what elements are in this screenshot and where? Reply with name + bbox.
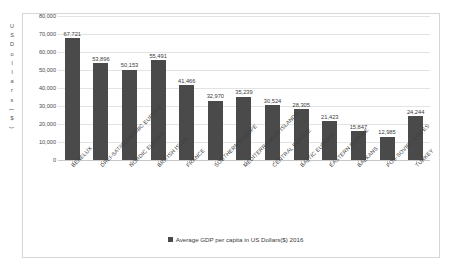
bar-value-label: 12,985 [378, 129, 395, 135]
y-axis-tick-label: 60,000 [39, 49, 56, 55]
bar-value-label: 35,239 [235, 89, 252, 95]
y-axis-title-char: U [10, 22, 14, 31]
y-axis-tick-label: 80,000 [39, 13, 56, 19]
chart-legend: Average GDP per capita in US Dollars($) … [0, 236, 471, 243]
y-axis-tick-label: 0 [53, 157, 56, 163]
bar[interactable] [208, 101, 223, 160]
y-axis-tick-label: 30,000 [39, 103, 56, 109]
bar-value-label: 50,153 [121, 62, 138, 68]
bar-value-label: 53,896 [92, 56, 109, 62]
y-axis-title-char: S [10, 31, 14, 40]
y-axis-title-char: ) [7, 108, 16, 110]
bar-value-label: 21,423 [321, 114, 338, 120]
bar-slot[interactable]: 53,896 [87, 16, 116, 160]
y-axis-title: USDollars)$( [5, 22, 19, 132]
bar-value-label: 30,524 [264, 98, 281, 104]
y-axis-tick-labels: 010,00020,00030,00040,00050,00060,00070,… [24, 14, 56, 162]
y-axis-title-char: s [11, 96, 14, 105]
y-axis-title-char: D [10, 40, 14, 49]
y-axis-title-char: $ [10, 114, 13, 123]
bar-slot[interactable]: 67,721 [58, 16, 87, 160]
y-axis-tick-label: 50,000 [39, 67, 56, 73]
bar[interactable] [93, 63, 108, 160]
bar-value-label: 28,305 [292, 102, 309, 108]
y-axis-title-char: ( [7, 127, 16, 129]
y-axis-title-char: l [11, 68, 12, 77]
y-axis-title-char: r [11, 86, 13, 95]
y-axis-title-char: a [10, 77, 13, 86]
bar[interactable] [65, 38, 80, 160]
bar-value-label: 24,244 [407, 109, 424, 115]
y-axis-title-char: o [10, 50, 13, 59]
bar-value-label: 41,466 [178, 78, 195, 84]
bar-slot[interactable]: 32,970 [201, 16, 230, 160]
bar-value-label: 55,491 [149, 53, 166, 59]
y-axis-tick-label: 70,000 [39, 31, 56, 37]
legend-label: Average GDP per capita in US Dollars($) … [176, 236, 304, 243]
y-axis-tick-label: 40,000 [39, 85, 56, 91]
x-axis-category-labels: BENELUXDREI-SAT/GERMANIC EUROPENORDIC EU… [58, 164, 430, 234]
bar-value-label: 67,721 [64, 31, 81, 37]
legend-swatch-icon [168, 237, 173, 242]
bar-slot[interactable]: 12,985 [373, 16, 402, 160]
y-axis-tick-label: 10,000 [39, 139, 56, 145]
bar[interactable] [179, 85, 194, 160]
y-axis-tick-label: 20,000 [39, 121, 56, 127]
y-axis-title-char: l [11, 59, 12, 68]
bar-value-label: 32,970 [207, 93, 224, 99]
